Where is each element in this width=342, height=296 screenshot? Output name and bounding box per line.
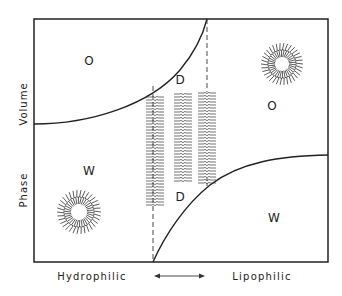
x-axis-label-hydrophilic: Hydrophilic <box>57 271 127 282</box>
y-axis-label-volume: Volume <box>18 82 29 125</box>
region-label-upper-middle: D <box>175 73 184 87</box>
double-arrow-icon <box>154 274 205 279</box>
region-label-upper-right: O <box>267 99 276 113</box>
diagram-frame <box>34 19 328 262</box>
y-axis-label-phase: Phase <box>18 173 29 208</box>
reverse-micelle-icon <box>261 43 303 85</box>
lower-phase-boundary <box>153 155 328 262</box>
region-label-lower-left: W <box>83 164 95 178</box>
region-label-lower-middle: D <box>175 190 184 204</box>
phase-diagram: O D O W D W Volume Phase Hydrophilic Lip… <box>0 0 342 296</box>
normal-micelle-icon <box>57 190 101 234</box>
x-axis-label-lipophilic: Lipophilic <box>232 271 291 282</box>
region-label-lower-right: W <box>268 211 280 225</box>
region-label-upper-left: O <box>84 54 93 68</box>
